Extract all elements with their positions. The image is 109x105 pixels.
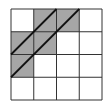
diagonal-lines [11,9,79,77]
grid-lines [11,9,102,100]
grid-diagram [0,0,109,105]
